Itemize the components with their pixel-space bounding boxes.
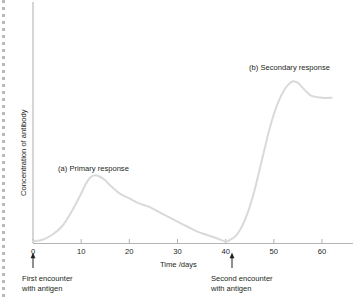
second-encounter-label-line2: with antigen (210, 284, 252, 293)
second-encounter-label-line1: Second encounter (211, 274, 273, 283)
x-axis-ticks (33, 239, 322, 243)
y-axis-title: Concentration of antibody (19, 109, 28, 196)
x-axis-tick-labels: 0102030405060 (31, 247, 326, 256)
first-encounter-marker: First encounter with antigen (21, 253, 73, 294)
antibody-response-chart: 0102030405060 Concentration of antibody … (0, 0, 357, 301)
x-axis-tick-label: 40 (221, 247, 229, 256)
primary-response-annotation: (a) Primary response (58, 164, 129, 173)
x-axis-title: Time /days (160, 260, 197, 269)
secondary-response-annotation: (b) Secondary response (249, 63, 330, 72)
x-axis-tick-label: 30 (173, 247, 181, 256)
x-axis-tick-label: 20 (125, 247, 133, 256)
x-axis-tick-label: 50 (270, 247, 278, 256)
chart-axes (33, 2, 353, 244)
x-axis-tick-label: 60 (318, 247, 326, 256)
first-encounter-label-line2: with antigen (21, 284, 63, 293)
antibody-concentration-curve (33, 81, 332, 241)
first-encounter-label-line1: First encounter (22, 274, 73, 283)
second-encounter-marker: Second encounter with antigen (210, 253, 273, 294)
x-axis-tick-label: 10 (77, 247, 85, 256)
antibody-response-figure: 0102030405060 Concentration of antibody … (0, 0, 357, 301)
second-encounter-arrow-head (230, 253, 235, 259)
